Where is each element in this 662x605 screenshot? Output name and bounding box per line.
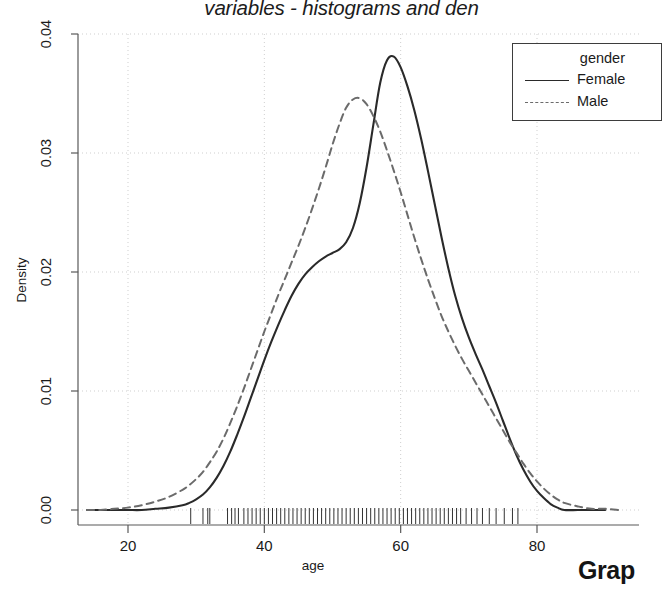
x-tick-label: 40 [244, 537, 284, 554]
density-curves [87, 56, 619, 510]
legend-entry-female: Female [513, 70, 662, 92]
legend-title: gender [580, 50, 625, 66]
y-tick-label: 0.00 [38, 487, 54, 533]
legend: gender Female Male [512, 43, 662, 121]
rug-plot [191, 508, 518, 524]
legend-key-solid-line [525, 80, 569, 81]
y-tick-label: 0.02 [38, 249, 54, 295]
y-axis-label: Density [14, 160, 29, 400]
y-tick-label: 0.04 [38, 11, 54, 57]
axis-ticks [71, 34, 537, 533]
corner-watermark: Grap [578, 556, 635, 585]
x-axis-label: age [78, 558, 548, 573]
density-curve-female [87, 56, 605, 510]
legend-label-male: Male [577, 93, 608, 109]
y-tick-label: 0.01 [38, 368, 54, 414]
legend-entry-male: Male [513, 92, 662, 114]
legend-key-dashed-line [525, 102, 569, 103]
x-tick-label: 60 [381, 537, 421, 554]
density-curve-male [87, 98, 619, 510]
x-tick-label: 20 [108, 537, 148, 554]
legend-label-female: Female [577, 71, 625, 87]
y-tick-label: 0.03 [38, 130, 54, 176]
x-tick-label: 80 [517, 537, 557, 554]
